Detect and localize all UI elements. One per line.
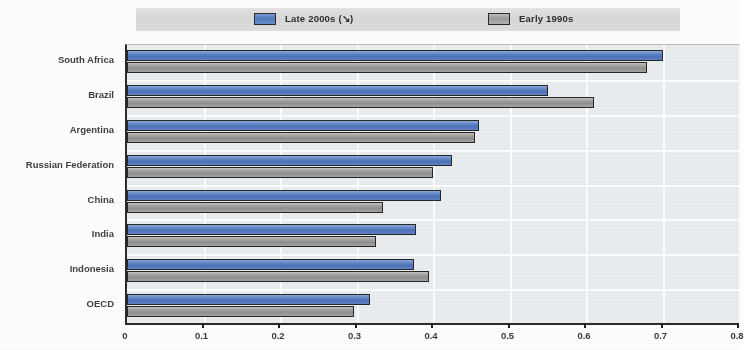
bar[interactable] <box>127 294 370 305</box>
legend-item-label: Late 2000s (↘) <box>285 14 353 24</box>
gridline-horizontal <box>127 254 739 256</box>
bar[interactable] <box>127 120 479 131</box>
legend-item-label: Early 1990s <box>519 14 574 24</box>
x-axis-tick-label: 0.8 <box>730 331 743 341</box>
legend-item-early-1990s[interactable]: Early 1990s <box>488 11 574 27</box>
bar[interactable] <box>127 155 452 166</box>
gridline-horizontal <box>127 289 739 291</box>
bar-group <box>127 190 739 220</box>
gridline-vertical <box>739 45 741 324</box>
y-axis-category-labels: South AfricaBrazilArgentinaRussian Feder… <box>0 44 120 323</box>
x-axis-tick <box>278 323 280 328</box>
gridline-horizontal <box>127 185 739 187</box>
y-axis-label-argentina: Argentina <box>70 125 114 135</box>
y-axis-label-china: China <box>88 195 114 205</box>
x-axis-tick-label: 0.3 <box>348 331 361 341</box>
y-axis-label-indonesia: Indonesia <box>70 264 114 274</box>
x-axis-tick-label: 0.7 <box>654 331 667 341</box>
gridline-horizontal <box>127 219 739 221</box>
y-axis-label-brazil: Brazil <box>88 90 114 100</box>
bar[interactable] <box>127 271 429 282</box>
y-axis-label-oecd: OECD <box>87 299 114 309</box>
bar[interactable] <box>127 50 663 61</box>
y-axis-label-russian-federation: Russian Federation <box>26 160 114 170</box>
bar[interactable] <box>127 202 383 213</box>
x-axis-tick <box>584 323 586 328</box>
bar[interactable] <box>127 97 594 108</box>
x-axis-tick <box>355 323 357 328</box>
gridline-horizontal <box>127 115 739 117</box>
chart-legend: Late 2000s (↘) Early 1990s <box>136 8 680 31</box>
y-axis-label-india: India <box>92 229 114 239</box>
x-axis-tick-label: 0.5 <box>501 331 514 341</box>
x-axis-line <box>125 323 738 325</box>
x-axis-tick-label: 0.4 <box>424 331 437 341</box>
bar[interactable] <box>127 259 414 270</box>
x-axis-tick-label: 0 <box>122 331 127 341</box>
x-axis-tick <box>737 323 739 328</box>
bar-group <box>127 85 739 115</box>
bar[interactable] <box>127 236 376 247</box>
bar-group <box>127 50 739 80</box>
bar-group <box>127 120 739 150</box>
x-axis-tick-label: 0.1 <box>195 331 208 341</box>
gridline-horizontal <box>127 80 739 82</box>
bar[interactable] <box>127 167 433 178</box>
bar-group <box>127 259 739 289</box>
bar[interactable] <box>127 306 354 317</box>
bar-group <box>127 294 739 324</box>
bar[interactable] <box>127 132 475 143</box>
bar-group <box>127 155 739 185</box>
bar[interactable] <box>127 62 647 73</box>
x-axis-tick <box>202 323 204 328</box>
bar-group <box>127 224 739 254</box>
bar[interactable] <box>127 224 416 235</box>
y-axis-label-south-africa: South Africa <box>58 55 114 65</box>
gray-swatch-icon <box>488 13 510 25</box>
x-axis-tick <box>431 323 433 328</box>
bar[interactable] <box>127 190 441 201</box>
x-axis-tick-labels: 00.10.20.30.40.50.60.70.8 <box>0 331 739 347</box>
x-axis-tick <box>508 323 510 328</box>
bar[interactable] <box>127 85 548 96</box>
gridline-horizontal <box>127 150 739 152</box>
blue-swatch-icon <box>254 13 276 25</box>
legend-item-late-2000s[interactable]: Late 2000s (↘) <box>254 11 353 27</box>
x-axis-tick <box>661 323 663 328</box>
x-axis-tick-label: 0.2 <box>271 331 284 341</box>
x-axis-tick-label: 0.6 <box>577 331 590 341</box>
plot-area <box>125 44 740 324</box>
